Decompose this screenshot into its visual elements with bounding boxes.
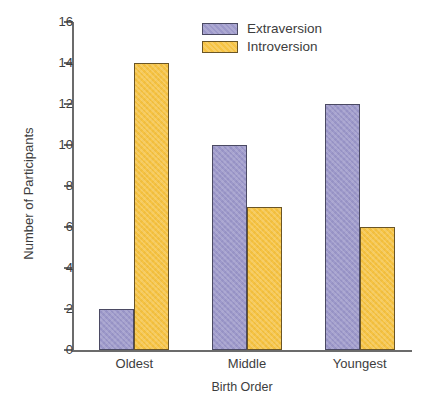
bar-youngest-extraversion	[325, 104, 360, 350]
bar-middle-extraversion	[212, 145, 247, 350]
y-tick-label: 14	[45, 56, 73, 69]
legend-swatch-extraversion	[202, 23, 238, 35]
y-tick-label: 16	[45, 15, 73, 28]
y-tick-label: 10	[45, 138, 73, 151]
legend: Extraversion Introversion	[202, 20, 322, 56]
x-axis-title: Birth Order	[72, 380, 412, 394]
y-tick-label: 6	[45, 220, 73, 233]
y-tick-label: 12	[45, 97, 73, 110]
bar-middle-introversion	[247, 207, 282, 351]
legend-label-introversion: Introversion	[247, 40, 318, 54]
x-category-label-middle: Middle	[192, 356, 302, 371]
y-tick-label: 4	[45, 261, 73, 274]
plot-area	[74, 22, 412, 350]
x-axis-line	[72, 350, 412, 352]
x-category-label-oldest: Oldest	[79, 356, 189, 371]
y-tick-label: 8	[45, 179, 73, 192]
bar-oldest-extraversion	[99, 309, 134, 350]
legend-swatch-introversion	[202, 41, 238, 53]
bar-oldest-introversion	[134, 63, 169, 350]
y-tick-label: 2	[45, 302, 73, 315]
x-category-label-youngest: Youngest	[305, 356, 415, 371]
y-tick-label: 0	[45, 343, 73, 356]
bar-chart-figure: Number of Participants 0246810121416 Old…	[0, 0, 422, 407]
y-axis-title: Number of Participants	[21, 94, 36, 294]
legend-label-extraversion: Extraversion	[247, 22, 322, 36]
legend-item-extraversion: Extraversion	[202, 20, 322, 38]
legend-item-introversion: Introversion	[202, 38, 322, 56]
bar-youngest-introversion	[360, 227, 395, 350]
